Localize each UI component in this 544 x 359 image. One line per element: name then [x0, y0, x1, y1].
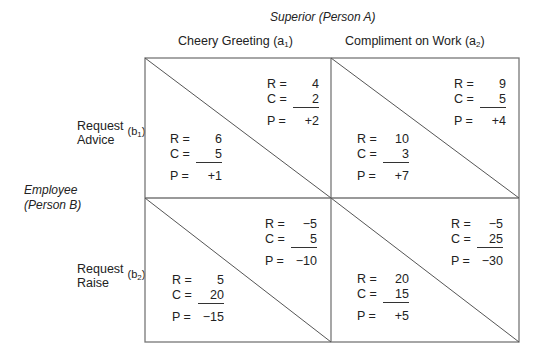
cell-a1b1-superior-payoff: R =4 C =2 P =+2 [267, 77, 319, 129]
cell-a2b1-superior-payoff: R =9 C =5 P =+4 [454, 77, 506, 129]
cell-a2b1-employee-payoff: R =10 C =3 P =+7 [357, 132, 409, 184]
cell-a2b2-employee-payoff: R =20 C =15 P =+5 [357, 272, 409, 324]
cell-a2b2-superior-payoff: R =−5 C =25 P =−30 [451, 217, 503, 269]
cell-a1b1-employee-payoff: R =6 C =5 P =+1 [170, 132, 222, 184]
payoff-grid [0, 0, 544, 359]
cell-a1b2-employee-payoff: R =5 C =20 P =−15 [172, 273, 224, 325]
cell-a1b2-superior-payoff: R =−5 C =5 P =−10 [265, 217, 317, 269]
